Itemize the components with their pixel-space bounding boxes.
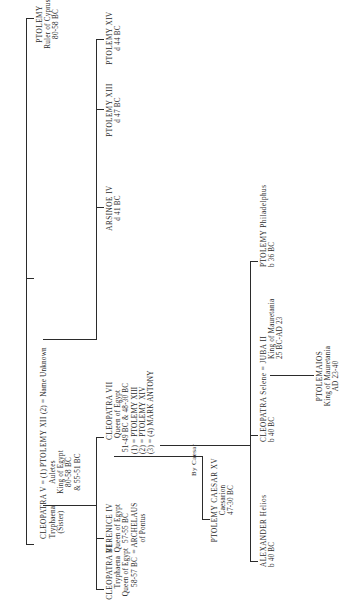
node-cleopatra-vii: CLEOPATRA VII Queen of Egypt 51-49 BC & … xyxy=(106,370,155,454)
connector-arsinoe-iv-tick xyxy=(96,207,104,208)
connector-ptolemy-xiv-tick xyxy=(96,39,104,40)
connector-cleopatra-selene-tick xyxy=(250,435,258,436)
node-cleopatra-v: CLEOPATRA V = (1) PTOLEMY XII (2) = Name… xyxy=(40,347,48,539)
node-arsinoe-iv: ARSINOE IV d 41 BC xyxy=(106,185,122,231)
node-cleopatra-v-details: Tryphaena (Sister) xyxy=(49,506,65,538)
marriage-2-sign: (2) = xyxy=(40,399,48,414)
node-ptolemy-xii-details: Auletes King of Egypt 80-58 BC & 55-51 B… xyxy=(49,450,82,494)
connector-ptolemy-xii-tick xyxy=(26,278,34,279)
connector-gen2-bar-right xyxy=(96,40,97,340)
node-alexander-helios: ALEXANDER Helios b 40 BC xyxy=(260,495,276,567)
connector-caesarion-foot xyxy=(202,456,203,520)
by-caesar-label: By Caesar xyxy=(190,443,198,476)
name-unknown: Name Unknown xyxy=(40,347,48,397)
node-ptolemy-philadelphus: PTOLEMY Philadelphus b 36 BC xyxy=(260,185,276,267)
connector-ptolemaios-descent xyxy=(270,375,314,376)
connector-name-unknown-descent xyxy=(43,339,96,340)
node-caesarion: PTOLEMY CAESAR XV Caesarion 47-30 BC xyxy=(211,458,236,542)
node-juba-ii: King of Mauretania 25 BC-AD 23 xyxy=(268,299,284,359)
connector-cleopatra-v-tick xyxy=(26,544,34,545)
connector-cleopatra-v-descent xyxy=(43,505,96,506)
connector-ptolemy-xiii-tick xyxy=(96,109,104,110)
connector-gen1-bar xyxy=(26,19,27,545)
connector-caesarion-tick xyxy=(202,519,210,520)
connector-caesarion-vertical xyxy=(114,456,202,457)
connector-cleopatra-vii-tick xyxy=(96,437,104,438)
connector-ptolemy-cyprus-tick xyxy=(26,18,34,19)
node-berenice-iv: BERENICE IV Queen of Egypt 57-55 BC = AR… xyxy=(106,503,147,554)
connector-alexander-tick xyxy=(250,561,258,562)
connector-philadelphus-tick xyxy=(250,261,258,262)
connector-cleopatra-vi-tick xyxy=(96,589,104,590)
connector-gen2-bar-left xyxy=(96,437,97,590)
connector-antony-vertical xyxy=(160,445,250,446)
connector-gen3-bar xyxy=(250,262,251,562)
node-ptolemaios: PTOLEMAIOS King of Mauretania AD 23-40 xyxy=(316,346,341,406)
node-ptolemy-xiv: PTOLEMY XIV d 44 BC xyxy=(106,11,122,65)
marriage-1-sign: = (1) xyxy=(40,469,48,484)
node-ptolemy-xiii: PTOLEMY XIII d 47 BC xyxy=(106,83,122,137)
node-ptolemy-cyprus: PTOLEMY Ruler of Cyprus 80-58 BC xyxy=(36,0,61,49)
connector-berenice-iv-tick xyxy=(96,538,104,539)
